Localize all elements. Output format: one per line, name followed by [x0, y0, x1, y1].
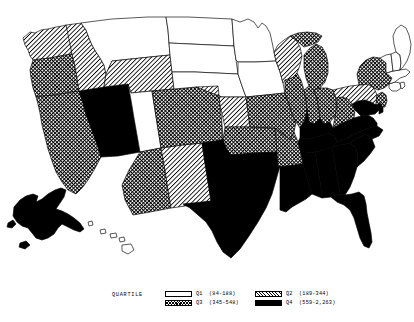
- state-nd: [166, 17, 234, 46]
- map-legend: QUARTILE Q1 (84-188) Q3 (345-548) Q2 (18…: [112, 290, 372, 312]
- state-ok: [223, 127, 278, 155]
- legend-swatch-q2-icon: [255, 291, 282, 298]
- state-or: [30, 54, 79, 97]
- legend-title: QUARTILE: [112, 292, 143, 298]
- legend-range-q1: (84-188): [209, 290, 236, 298]
- state-sd: [169, 43, 238, 74]
- state-ri: [400, 82, 405, 89]
- legend-range-q4: (559-2,263): [299, 299, 335, 307]
- state-ak: [7, 188, 84, 249]
- legend-label-q3: Q3: [196, 299, 203, 307]
- legend-label-q2: Q2: [286, 290, 293, 298]
- legend-label-q1: Q1: [196, 290, 203, 298]
- legend-swatch-q4-icon: [255, 300, 282, 307]
- legend-swatch-q3-icon: [165, 300, 192, 307]
- state-co: [152, 86, 223, 148]
- state-wa: [23, 25, 72, 60]
- state-mn: [232, 19, 276, 62]
- state-hi: [88, 221, 134, 254]
- legend-range-q3: (345-548): [209, 299, 239, 307]
- choropleth-map-figure: QUARTILE Q1 (84-188) Q3 (345-548) Q2 (18…: [0, 0, 414, 322]
- us-map-svg: [0, 0, 414, 322]
- legend-range-q2: (189-344): [299, 290, 329, 298]
- legend-label-q4: Q4: [286, 299, 293, 307]
- state-fl: [331, 192, 372, 248]
- state-mi: [304, 44, 328, 90]
- legend-swatch-q1-icon: [165, 291, 192, 298]
